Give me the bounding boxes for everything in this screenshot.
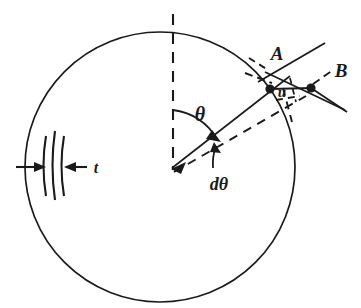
line-from-b-lower xyxy=(311,88,347,112)
thickness-arc-middle xyxy=(53,131,56,200)
label-angle-theta: θ xyxy=(195,103,206,125)
dash-tick-upper-left-b xyxy=(313,70,333,84)
label-displacement-u: u xyxy=(278,84,286,100)
label-differential-angle: dθ xyxy=(210,174,229,194)
label-point-a: A xyxy=(270,43,284,64)
point-b-marker xyxy=(306,83,315,92)
label-point-b: B xyxy=(334,60,348,81)
tangent-line-a xyxy=(258,43,325,82)
dtheta-arc-arrowhead xyxy=(210,142,221,153)
radius-dtheta xyxy=(174,96,306,172)
thickness-arrow-right-head xyxy=(64,162,76,172)
label-thickness-t: t xyxy=(94,159,99,176)
ring-diagram-svg: A B u θ dθ t xyxy=(0,0,361,308)
point-a-marker xyxy=(265,84,274,93)
thickness-arc-outer xyxy=(62,136,65,196)
figure-container: A B u θ dθ t xyxy=(0,0,361,308)
